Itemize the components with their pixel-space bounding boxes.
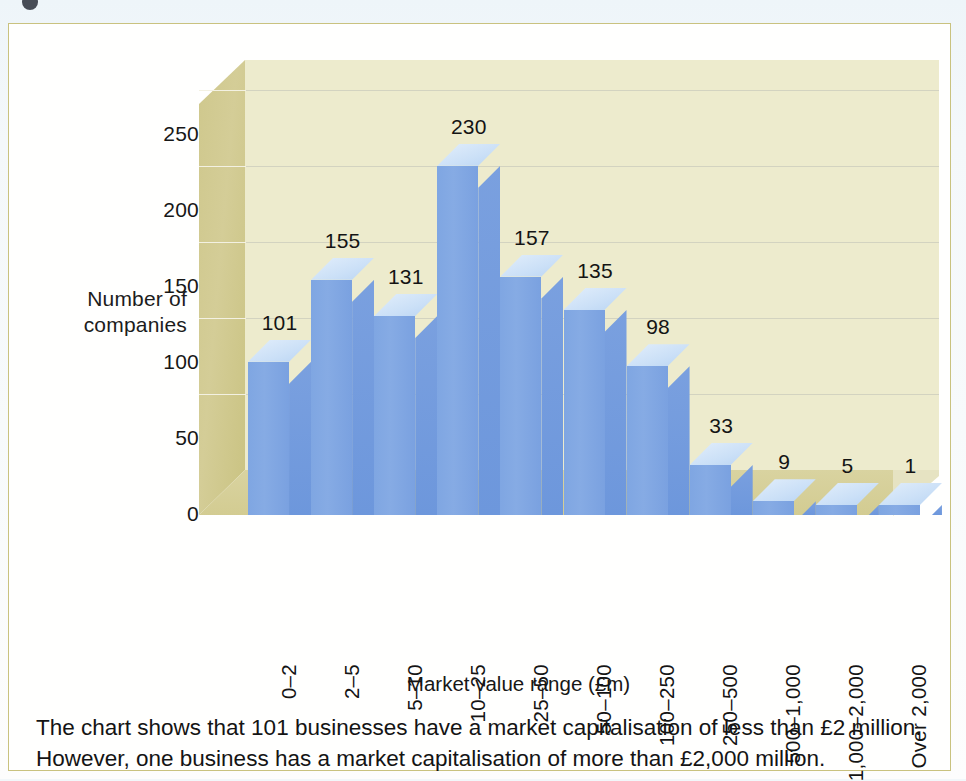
y-tick-label-150: 150 [133,274,199,298]
bar-value-label-2: 155 [298,229,388,253]
x-axis-title: Market value range (£m) [9,672,952,696]
bar-5[interactable] [500,277,541,515]
bar-front-face [753,501,794,515]
bar-side-face [541,277,563,515]
bar-top-face [879,483,942,505]
bar-front-face [879,505,920,515]
bar-side-face [415,316,437,515]
bar-front-face [627,366,668,515]
caption-line-1: The chart shows that 101 businesses have… [36,712,931,743]
bar-value-label-8: 33 [676,414,766,438]
bar-2[interactable] [311,280,352,515]
bar-front-face [500,277,541,515]
bar-side-face [289,362,311,515]
figure-card: Number of companies 050100150200250 1011… [8,23,951,771]
bar-series: 1011551312301571359833951 [199,60,939,542]
bar-top-face [564,288,627,310]
bar-body [879,505,920,515]
bar-9[interactable] [753,501,794,515]
x-axis-category-labels: 0–22–55–1010–2525–5050–100100–250250–500… [199,552,939,672]
bar-11[interactable] [879,505,920,515]
bar-side-face [605,310,627,515]
bar-side-face [794,501,816,515]
bar-front-face [248,362,289,515]
bar-side-face [857,505,879,515]
plot-area-3d: 1011551312301571359833951 [199,60,939,550]
figure-caption: The chart shows that 101 businesses have… [36,712,931,774]
bar-front-face [437,166,478,515]
bar-value-label-6: 135 [550,259,640,283]
bar-body [437,166,478,515]
bar-front-face [311,280,352,515]
bar-4[interactable] [437,166,478,515]
bar-body [753,501,794,515]
y-tick-label-0: 0 [133,502,199,526]
bar-side-face [478,166,500,515]
bar-7[interactable] [627,366,668,515]
bar-value-label-5: 157 [487,226,577,250]
bar-top-face [816,483,879,505]
bar-body [690,465,731,515]
bar-top-face [627,344,690,366]
bar-body [816,505,857,515]
y-tick-label-250: 250 [133,122,199,146]
x-axis-title-text: Market value range (£m) [407,672,630,695]
bar-top-face [753,479,816,501]
bar-8[interactable] [690,465,731,515]
bar-front-face [816,505,857,515]
bar-3[interactable] [374,316,415,515]
bar-1[interactable] [248,362,289,515]
bar-top-face [437,144,500,166]
bar-body [564,310,605,515]
bar-value-label-11: 1 [865,454,955,478]
bar-body [248,362,289,515]
bar-top-face [374,294,437,316]
bar-body [627,366,668,515]
bar-side-face [920,505,942,515]
bar-6[interactable] [564,310,605,515]
y-tick-label-50: 50 [133,426,199,450]
bar-value-label-4: 230 [424,115,514,139]
bar-side-face [352,280,374,515]
bar-body [500,277,541,515]
bar-10[interactable] [816,505,857,515]
caption-line-2: However, one business has a market capit… [36,743,931,774]
bar-front-face [374,316,415,515]
bar-value-label-7: 98 [613,315,703,339]
bar-body [374,316,415,515]
y-tick-label-100: 100 [133,350,199,374]
bar-front-face [690,465,731,515]
bar-chart: Number of companies 050100150200250 1011… [9,24,952,672]
y-tick-label-200: 200 [133,198,199,222]
bar-side-face [668,366,690,515]
bar-body [311,280,352,515]
y-axis-tick-labels: 050100150200250 [127,24,199,544]
bar-top-face [248,340,311,362]
bar-front-face [564,310,605,515]
